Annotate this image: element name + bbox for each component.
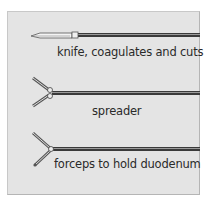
instruments-drawing	[0, 0, 207, 204]
forceps-label: forceps to hold duodenum	[54, 157, 201, 171]
knife-icon	[31, 32, 200, 38]
spreader-icon	[33, 78, 200, 106]
spreader-label: spreader	[92, 104, 141, 118]
knife-label: knife, coagulates and cuts	[57, 45, 203, 59]
